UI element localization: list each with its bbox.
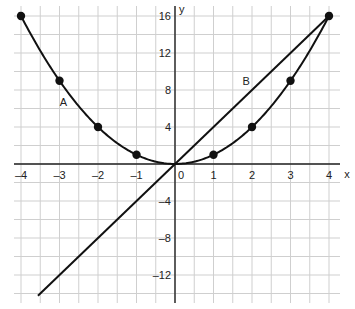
- y-tick-label: –4: [159, 195, 171, 207]
- series-label-a: A: [60, 96, 68, 108]
- grid-lines: [14, 6, 340, 303]
- y-tick-label: 4: [165, 121, 171, 133]
- x-tick-label: 3: [287, 169, 293, 181]
- x-tick-label: 1: [210, 169, 216, 181]
- data-point: [248, 123, 256, 131]
- x-tick-labels: –4–3–2–101234: [15, 169, 332, 181]
- x-axis-label: x: [344, 168, 350, 180]
- data-point: [325, 12, 333, 20]
- x-tick-label: 4: [326, 169, 332, 181]
- data-point: [132, 151, 140, 159]
- y-tick-label: 8: [165, 84, 171, 96]
- chart: xy –4–3–2–101234 161284–4–8–12 AB: [0, 0, 355, 309]
- y-axis-label: y: [179, 3, 185, 15]
- y-tick-label: 12: [159, 47, 171, 59]
- y-tick-label: –8: [159, 232, 171, 244]
- x-tick-label: –1: [130, 169, 142, 181]
- x-tick-label: –3: [53, 169, 65, 181]
- data-point: [55, 77, 63, 85]
- data-point: [286, 77, 294, 85]
- x-tick-label: 0: [178, 169, 184, 181]
- y-tick-label: 16: [159, 10, 171, 22]
- x-tick-label: –2: [92, 169, 104, 181]
- y-tick-label: –12: [153, 269, 171, 281]
- data-point: [17, 12, 25, 20]
- series-line-b: [38, 16, 329, 296]
- axes: xy: [14, 3, 350, 303]
- data-point: [94, 123, 102, 131]
- data-point: [209, 151, 217, 159]
- x-tick-label: –4: [15, 169, 27, 181]
- series-labels: AB: [60, 75, 250, 107]
- x-tick-label: 2: [249, 169, 255, 181]
- series-label-b: B: [243, 75, 250, 87]
